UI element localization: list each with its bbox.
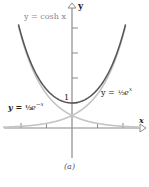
y-ticks bbox=[72, 28, 78, 103]
svg-text:y =: y = bbox=[100, 88, 115, 97]
x-axis-arrow-icon bbox=[140, 124, 146, 132]
cosh-label: y = cosh x bbox=[23, 12, 66, 21]
half-exp-label: y = ½ e x bbox=[100, 86, 133, 97]
figure-caption: (a) bbox=[64, 162, 75, 171]
svg-text:x: x bbox=[129, 86, 133, 92]
y-axis-label: y bbox=[77, 1, 84, 11]
y-tick-label-1: 1 bbox=[64, 93, 69, 102]
half-exp-neg-label: y = ½ e −x bbox=[7, 101, 45, 112]
y-axis-arrow-icon bbox=[68, 3, 76, 8]
cosh-graph: y x 1 y = cosh x y = ½ e x y = ½ e −x (a… bbox=[0, 0, 149, 187]
svg-text:−x: −x bbox=[36, 101, 45, 107]
x-axis-label: x bbox=[138, 115, 144, 125]
svg-text:y =: y = bbox=[7, 102, 22, 112]
